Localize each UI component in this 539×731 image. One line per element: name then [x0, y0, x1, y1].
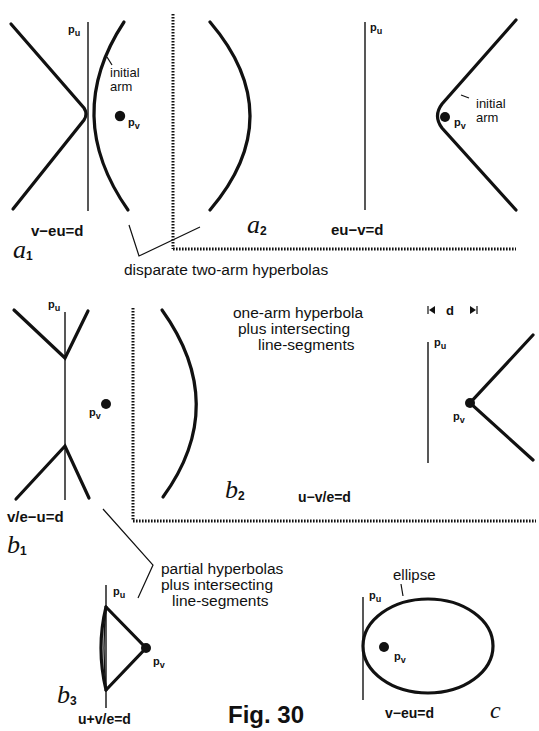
- pu-label: pu: [434, 336, 446, 351]
- pv-label: pv: [454, 116, 466, 131]
- a-caption: disparate two-arm hyperbolas: [124, 261, 328, 278]
- panel-b3: pu pv b3 u+v/e=d: [57, 585, 165, 727]
- pu-label: pu: [370, 21, 382, 36]
- pv-label: pv: [453, 410, 465, 425]
- panel-label: c: [490, 697, 501, 723]
- svg-text:d: d: [446, 303, 454, 318]
- panel-label: b3: [57, 680, 77, 709]
- initial-arm-label-2: arm: [476, 110, 498, 125]
- left-arm: [11, 24, 86, 209]
- panel-b2: one-arm hyperbola plus intersecting line…: [133, 303, 536, 521]
- panel-label: a2: [247, 210, 267, 239]
- equation-label: u−v/e=d: [298, 489, 351, 505]
- caption-line-1: one-arm hyperbola: [233, 304, 363, 321]
- panel-c: ellipse pu pv v−eu=d c: [363, 566, 501, 723]
- pv-label: pv: [89, 406, 101, 421]
- pu-label: pu: [48, 298, 60, 313]
- b-caption-line-2: plus intersecting: [161, 576, 273, 593]
- equation-label: v−eu=d: [31, 222, 84, 239]
- ellipse-leader: [401, 584, 403, 596]
- initial-arm-leader: [461, 95, 469, 98]
- pv-label: pv: [128, 116, 140, 131]
- d-distance-marker: d: [428, 303, 477, 318]
- pv-label: pv: [394, 650, 406, 665]
- panel-b1: pu pv v/e−u=d b1: [7, 298, 111, 559]
- panel-a2: a2 pu initial arm pv eu−v=d: [173, 14, 516, 249]
- lower-v: [16, 446, 89, 499]
- figure-30-diagram: pu initial arm pv v−eu=d a1 a2 pu initia…: [0, 0, 539, 731]
- pv-dot: [141, 643, 151, 653]
- pv-dot: [379, 642, 389, 652]
- pv-label: pv: [153, 655, 165, 670]
- b-caption-line-1: partial hyperbolas: [161, 560, 284, 577]
- upper-v: [14, 310, 88, 358]
- initial-arm-label-2: arm: [110, 79, 132, 94]
- one-arm-hyperbola: [162, 310, 196, 497]
- panel-a1: pu initial arm pv v−eu=d a1: [11, 22, 140, 264]
- pu-label: pu: [369, 589, 381, 604]
- partial-triangle: [106, 607, 146, 690]
- initial-arm-label-1: initial: [110, 65, 140, 80]
- second-arm-curve: [210, 22, 250, 210]
- pv-dot: [115, 111, 125, 121]
- equation-label: v/e−u=d: [7, 508, 64, 525]
- caption-line-2: plus intersecting: [238, 320, 350, 337]
- pu-label: pu: [113, 585, 125, 600]
- b-caption-line-3: line-segments: [172, 592, 269, 609]
- panel-label: b2: [225, 475, 245, 504]
- panel-label: b1: [7, 530, 27, 559]
- pv-dot: [101, 399, 111, 409]
- equation-label: u+v/e=d: [78, 711, 131, 727]
- initial-arm-leader: [107, 57, 112, 65]
- equation-label: v−eu=d: [385, 705, 434, 721]
- equation-label: eu−v=d: [331, 221, 384, 238]
- ellipse-label: ellipse: [393, 566, 436, 583]
- pv-dot: [465, 398, 475, 408]
- pv-dot: [440, 112, 450, 122]
- panel-label: a1: [13, 235, 33, 264]
- initial-arm-label-1: initial: [476, 96, 506, 111]
- pu-label: pu: [68, 23, 80, 38]
- figure-title: Fig. 30: [228, 701, 304, 728]
- intersecting-segments: [470, 335, 533, 460]
- caption-line-3: line-segments: [258, 336, 355, 353]
- a-caption-leader: [129, 225, 200, 256]
